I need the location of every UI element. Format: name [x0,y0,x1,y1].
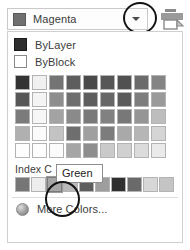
color-swatch[interactable] [151,126,166,141]
selected-color-swatch [13,13,26,26]
color-swatch[interactable] [32,143,47,158]
color-grid-row [15,75,182,90]
color-swatch[interactable] [100,92,115,107]
color-swatch[interactable] [15,75,30,90]
color-swatch[interactable] [134,109,149,124]
list-item-label: ByBlock [35,56,75,68]
color-swatch[interactable] [151,92,166,107]
color-swatch[interactable] [117,126,132,141]
list-item-byblock[interactable]: ByBlock [14,53,182,70]
chevron-down-icon[interactable] [132,17,140,21]
color-combobox[interactable]: Magenta [7,8,148,30]
color-swatch[interactable] [66,92,81,107]
color-swatch[interactable] [15,92,30,107]
bylayer-swatch [14,38,27,51]
color-swatch[interactable] [134,75,149,90]
color-swatch[interactable] [134,92,149,107]
color-swatch[interactable] [32,92,47,107]
color-swatch[interactable] [117,92,132,107]
color-swatch[interactable] [66,109,81,124]
color-swatch[interactable] [49,143,64,158]
color-swatch[interactable] [100,126,115,141]
color-picker-screenshot: Magenta ByLayer ByBlock Index C [0,0,190,250]
color-swatch[interactable] [49,75,64,90]
color-swatch[interactable] [15,109,30,124]
color-swatch[interactable] [66,143,81,158]
color-swatch[interactable] [100,109,115,124]
color-swatch[interactable] [83,126,98,141]
index-color-swatch[interactable] [127,177,142,192]
index-color-swatch[interactable] [111,177,126,192]
color-swatch[interactable] [49,126,64,141]
color-swatch[interactable] [49,109,64,124]
color-swatch[interactable] [151,75,166,90]
color-swatch[interactable] [15,143,30,158]
color-grid-row [15,109,182,124]
color-swatch[interactable] [83,75,98,90]
color-swatch[interactable] [15,126,30,141]
globe-icon [16,203,29,216]
index-color-swatch[interactable] [15,177,30,192]
index-color-swatch[interactable] [31,177,46,192]
more-colors-label: More Colors... [37,203,107,215]
color-swatch[interactable] [32,126,47,141]
color-swatch[interactable] [83,109,98,124]
named-color-list: ByLayer ByBlock [8,32,182,73]
color-swatch[interactable] [151,109,166,124]
color-swatch[interactable] [117,109,132,124]
selected-color-label: Magenta [33,13,77,25]
color-grid-row [15,92,182,107]
color-dropdown-panel: ByLayer ByBlock Index C More Colors... [7,31,183,243]
index-color-swatch[interactable] [143,177,158,192]
color-swatch[interactable] [83,143,98,158]
color-grid [8,73,182,158]
color-swatch[interactable] [66,126,81,141]
color-swatch[interactable] [134,143,149,158]
color-swatch[interactable] [117,143,132,158]
color-swatch[interactable] [83,92,98,107]
color-swatch[interactable] [100,143,115,158]
color-swatch[interactable] [49,92,64,107]
list-item-bylayer[interactable]: ByLayer [14,36,182,53]
color-swatch[interactable] [66,75,81,90]
list-item-label: ByLayer [35,39,76,51]
print-preview-icon[interactable] [159,7,187,31]
color-grid-row [15,143,182,158]
byblock-swatch [14,55,27,68]
color-swatch[interactable] [100,75,115,90]
color-swatch[interactable] [32,75,47,90]
more-colors-button[interactable]: More Colors... [8,198,182,220]
color-tooltip: Green [56,164,103,183]
color-swatch[interactable] [134,126,149,141]
index-color-swatch[interactable] [159,177,174,192]
color-grid-row [15,126,182,141]
color-swatch[interactable] [117,75,132,90]
color-swatch[interactable] [151,143,166,158]
color-swatch[interactable] [32,109,47,124]
